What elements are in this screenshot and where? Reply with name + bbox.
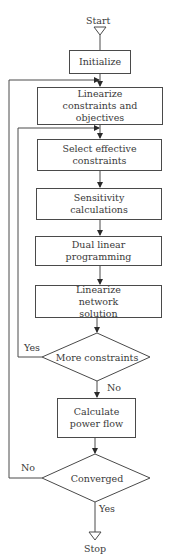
step-linearize-network-solution: Linearize network solution	[35, 285, 162, 318]
label-more-constraints-no: No	[107, 382, 121, 393]
step-sensitivity-calculations: Sensitivity calculations	[36, 188, 162, 220]
step-dual-linear-programming: Dual linear programming	[35, 236, 162, 266]
decision-converged: Converged	[71, 473, 123, 484]
label-more-constraints-yes: Yes	[24, 342, 40, 353]
stop-label: Stop	[84, 543, 106, 554]
stop-terminal-icon	[89, 532, 101, 540]
start-terminal-icon	[94, 27, 106, 35]
label-converged-yes: Yes	[99, 503, 115, 514]
step-initialize: Initialize	[69, 50, 131, 74]
label-converged-no: No	[21, 462, 35, 473]
step-select-effective-constraints: Select effective constraints	[37, 139, 162, 171]
step-calculate-power-flow: Calculate power flow	[57, 398, 136, 438]
decision-more-constraints: More constraints	[56, 352, 139, 363]
start-label: Start	[86, 15, 110, 26]
step-linearize-constraints: Linearize constraints and objectives	[37, 87, 163, 125]
